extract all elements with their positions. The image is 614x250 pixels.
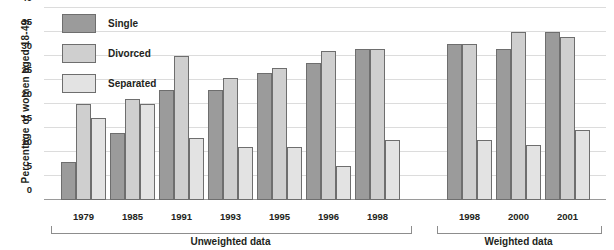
bar-divorced-1979	[76, 104, 91, 200]
chart-legend: SingleDivorcedSeparated	[62, 10, 156, 100]
y-axis-tick-label: 15	[21, 112, 32, 123]
y-axis-tick-label: 5	[27, 160, 32, 171]
bar-single-1979	[61, 162, 76, 200]
bar-group-2001	[545, 8, 590, 200]
bar-separated-2001	[575, 130, 590, 200]
y-axis-tick-label: 30	[21, 40, 32, 51]
bar-single-1998	[355, 49, 370, 200]
x-axis-label-1993: 1993	[220, 211, 241, 222]
y-axis-tick-label: 0	[27, 184, 32, 195]
bar-single-1985	[110, 133, 125, 200]
bar-separated-1998	[385, 140, 400, 200]
section-bracket-1	[437, 226, 602, 234]
bar-single-2000	[496, 49, 511, 200]
legend-swatch-separated	[62, 74, 96, 93]
section-bracket-0	[51, 226, 412, 234]
bar-separated-1979	[91, 118, 106, 200]
y-axis-tick-label: 25	[21, 64, 32, 75]
bar-divorced-1991	[174, 56, 189, 200]
y-axis-tick-label: 20	[21, 88, 32, 99]
bar-chart: Percentage of women aged 18-49 051015202…	[0, 0, 614, 250]
bar-group-1991	[159, 8, 204, 200]
x-axis-label-1995: 1995	[269, 211, 290, 222]
bar-divorced-1985	[125, 99, 140, 200]
x-axis-label-1998: 1998	[459, 211, 480, 222]
bar-separated-1996	[336, 166, 351, 200]
bar-divorced-1995	[272, 68, 287, 200]
bar-single-1995	[257, 73, 272, 200]
x-axis-label-2001: 2001	[557, 211, 578, 222]
bar-group-1995	[257, 8, 302, 200]
legend-item-separated[interactable]: Separated	[62, 70, 156, 96]
y-axis-tick-label: 35	[21, 16, 32, 27]
bar-divorced-1998	[370, 49, 385, 200]
legend-label-divorced: Divorced	[108, 48, 151, 59]
bar-separated-1995	[287, 147, 302, 200]
bar-separated-1985	[140, 104, 155, 200]
bar-group-1998	[447, 8, 492, 200]
x-axis-label-1996: 1996	[318, 211, 339, 222]
x-axis-label-1979: 1979	[73, 211, 94, 222]
legend-item-divorced[interactable]: Divorced	[62, 40, 156, 66]
legend-label-single: Single	[108, 18, 138, 29]
bar-divorced-2000	[511, 32, 526, 200]
bar-divorced-1998	[462, 44, 477, 200]
bar-single-1996	[306, 63, 321, 200]
x-axis-label-1998: 1998	[367, 211, 388, 222]
section-label-0: Unweighted data	[190, 236, 270, 247]
bar-separated-1998	[477, 140, 492, 200]
x-axis-label-2000: 2000	[508, 211, 529, 222]
section-label-1: Weighted data	[484, 236, 552, 247]
x-axis-label-1991: 1991	[171, 211, 192, 222]
legend-swatch-single	[62, 14, 96, 33]
bar-single-1993	[208, 90, 223, 200]
bar-single-2001	[545, 32, 560, 200]
bar-single-1991	[159, 90, 174, 200]
bar-divorced-2001	[560, 37, 575, 200]
bar-single-1998	[447, 44, 462, 200]
x-axis-label-1985: 1985	[122, 211, 143, 222]
y-axis-tick-label: 40	[21, 0, 32, 3]
bar-divorced-1996	[321, 51, 336, 200]
bar-group-1998	[355, 8, 400, 200]
legend-item-single[interactable]: Single	[62, 10, 156, 36]
legend-label-separated: Separated	[108, 78, 156, 89]
bar-separated-1993	[238, 147, 253, 200]
bar-group-1996	[306, 8, 351, 200]
bar-separated-2000	[526, 145, 541, 200]
y-axis-tick-label: 10	[21, 136, 32, 147]
bar-group-2000	[496, 8, 541, 200]
bar-group-1993	[208, 8, 253, 200]
bar-divorced-1993	[223, 78, 238, 200]
bar-separated-1991	[189, 138, 204, 200]
legend-swatch-divorced	[62, 44, 96, 63]
